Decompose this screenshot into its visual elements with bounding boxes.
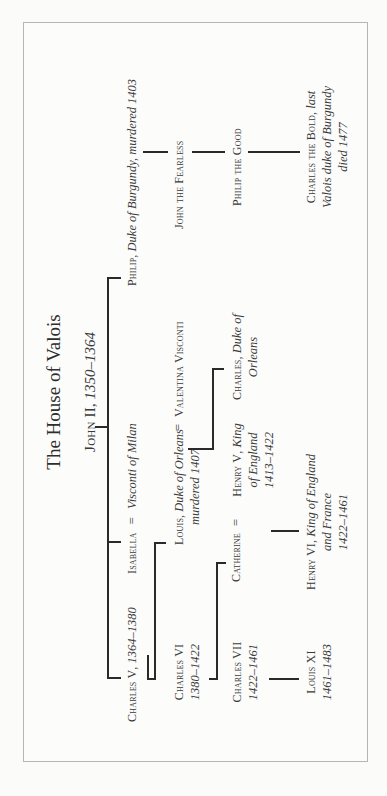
- person-desc: died 1477: [335, 62, 351, 232]
- person-name: Louis XI: [303, 622, 319, 722]
- person-isabella: Isabella = Visconti of Milan: [125, 423, 140, 574]
- charles-vi-children-bracket: [216, 562, 218, 680]
- isabella-children-bracket: [154, 542, 156, 680]
- person-charles-vi: Charles VI 1380–1422: [171, 632, 203, 712]
- family-tree: The House of Valois John II, 1350–1364 C…: [23, 22, 368, 762]
- person-desc: and France: [319, 432, 335, 612]
- person-name: Catherine: [229, 533, 243, 582]
- person-name: Isabella: [125, 532, 139, 574]
- gen1-tick-philip: [107, 277, 121, 279]
- person-name: Louis: [172, 518, 186, 545]
- louis-valentina-stem: [188, 448, 212, 450]
- gen1-bracket-line: [107, 277, 109, 679]
- spouse-name: Visconti of Milan: [125, 423, 139, 509]
- person-dates: 1422–1461: [335, 432, 351, 612]
- person-name: Charles VI: [171, 632, 187, 712]
- tick-charles-orleans: [212, 368, 224, 370]
- person-desc: Orleans: [245, 307, 261, 407]
- person-catherine: Catherine =: [229, 515, 244, 582]
- line-philip-to-john: [143, 151, 168, 153]
- person-philip-burgundy: Philip, Duke of Burgundy, murdered 1403: [125, 79, 140, 286]
- person-valentina-visconti: Valentina Visconti: [172, 321, 187, 417]
- person-desc: last: [304, 91, 318, 109]
- person-dates: 1422–1461: [245, 622, 261, 722]
- person-dates: 1413–1422: [261, 405, 277, 515]
- tick-catherine: [216, 562, 226, 564]
- person-desc: of England: [245, 405, 261, 515]
- person-henry-v: Henry V, King of England 1413–1422: [229, 405, 277, 515]
- person-dates: 1350–1364: [82, 332, 98, 400]
- person-desc: King: [230, 423, 244, 447]
- person-name: John II: [82, 407, 98, 452]
- orleans-bracket: [212, 368, 214, 450]
- line-charles-vii-to-louis-xi: [269, 678, 299, 680]
- marriage-sign-louis: =: [171, 424, 186, 431]
- person-charles-v: Charles V, 1364–1380: [125, 607, 140, 722]
- person-desc: Valois duke of Burgundy: [319, 62, 335, 232]
- line-philip-good-to-charles-bold: [248, 151, 300, 153]
- person-dates: 1380–1422: [187, 632, 203, 712]
- line-charles-v-to-vi: [147, 655, 149, 680]
- person-name: Henry VI: [304, 543, 318, 590]
- diagram-title: The House of Valois: [43, 292, 65, 492]
- marriage-sign: =: [125, 517, 139, 524]
- line-john-to-philip-good: [192, 151, 225, 153]
- person-dates: 1461–1483: [319, 622, 335, 722]
- person-philip-the-good: Philip the Good: [230, 128, 245, 206]
- person-name: Charles VII: [229, 622, 245, 722]
- person-henry-vi: Henry VI, King of England and France 142…: [303, 432, 351, 612]
- person-charles-orleans: Charles, Duke of Orleans: [229, 307, 261, 407]
- gen1-tick-isabella: [107, 541, 121, 543]
- person-charles-vii: Charles VII 1422–1461: [229, 622, 261, 722]
- person-desc: Duke of Orleans: [172, 429, 186, 512]
- person-name: Charles the Bold: [304, 115, 318, 203]
- person-desc: Duke of: [230, 314, 244, 353]
- person-dates: 1364–1380: [125, 607, 139, 663]
- person-desc: King of England: [304, 454, 318, 537]
- person-name: Henry V: [230, 454, 244, 497]
- line-henry-v-to-henry-vi: [271, 530, 299, 532]
- person-charles-the-bold: Charles the Bold, last Valois duke of Bu…: [303, 62, 351, 232]
- root-john-ii: John II, 1350–1364: [81, 272, 99, 512]
- person-desc: murdered 1407: [187, 402, 203, 572]
- person-louis-xi: Louis XI 1461–1483: [303, 622, 335, 722]
- person-name: Charles: [230, 359, 244, 400]
- person-john-the-fearless: John the Fearless: [172, 141, 187, 229]
- tick-louis-orleans: [154, 542, 166, 544]
- marriage-sign: =: [229, 519, 243, 526]
- person-name: Charles V: [125, 670, 139, 722]
- person-desc: Duke of Burgundy, murdered 1403: [125, 79, 139, 252]
- gen1-tick-charles-v: [107, 677, 121, 679]
- person-name: Philip: [125, 258, 139, 286]
